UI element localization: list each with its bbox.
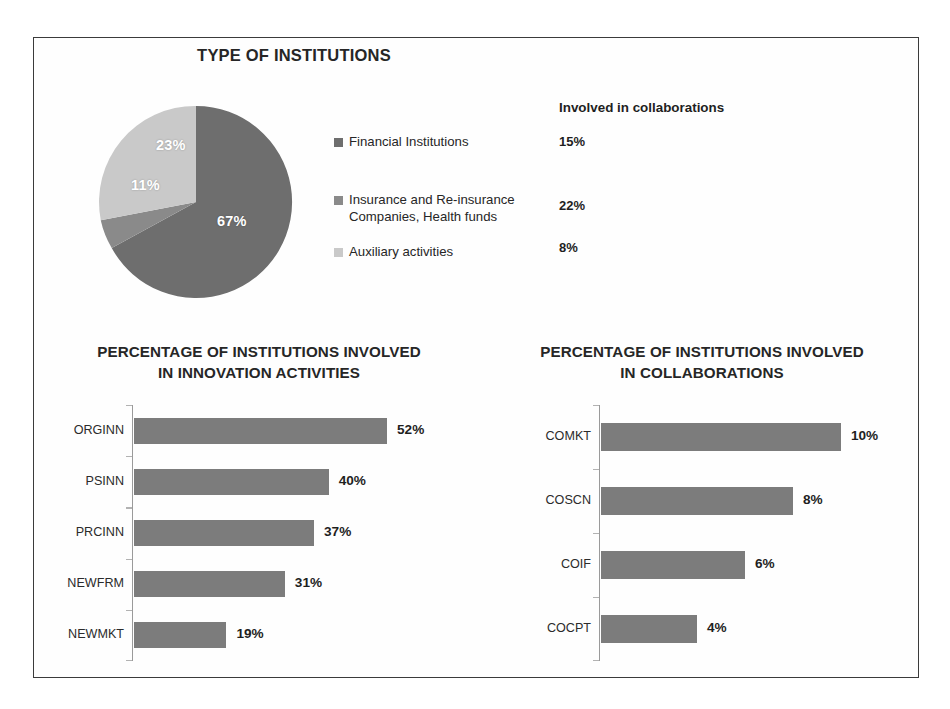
bar-value-orginn: 52% [397, 422, 424, 437]
axis-tick [593, 660, 599, 661]
bar-comkt [601, 423, 841, 451]
category-label-newmkt: NEWMKT [40, 627, 124, 641]
category-label-cocpt: COCPT [511, 621, 591, 635]
legend-item-auxiliary-activities: Auxiliary activities [334, 244, 453, 261]
collaborations-title: PERCENTAGE OF INSTITUTIONS INVOLVED IN C… [484, 341, 920, 383]
bar-value-prcinn: 37% [324, 524, 351, 539]
pie-slice-label-insurance: 11% [131, 177, 160, 193]
bar-newmkt [134, 622, 226, 648]
legend-swatch-icon-financial-institutions [334, 138, 343, 147]
legend-label-insurance: Insurance and Re-insurance Companies, He… [349, 192, 515, 225]
pie-slice-label-auxiliary-activities: 23% [156, 137, 186, 153]
legend-label-financial-institutions: Financial Institutions [349, 134, 468, 151]
bar-coscn [601, 487, 793, 515]
bar-psinn [134, 469, 329, 495]
axis-tick [126, 507, 132, 508]
bar-value-coif: 6% [755, 556, 775, 571]
bar-value-comkt: 10% [851, 428, 878, 443]
bar-orginn [134, 418, 387, 444]
category-label-newfrm: NEWFRM [40, 576, 124, 590]
pie-slice-auxiliary-activities [99, 106, 196, 220]
legend-swatch-icon-auxiliary-activities [334, 248, 343, 257]
category-label-orginn: ORGINN [40, 423, 124, 437]
innovation-activities-plot: ORGINN52%PSINN40%PRCINN37%NEWFRM31%NEWMK… [132, 405, 472, 661]
category-label-psinn: PSINN [40, 474, 124, 488]
bar-value-coscn: 8% [803, 492, 823, 507]
legend-item-financial-institutions: Financial Institutions [334, 134, 468, 151]
bar-newfrm [134, 571, 285, 597]
pie-chart-title: TYPE OF INSTITUTIONS [144, 46, 444, 65]
figure-frame: TYPE OF INSTITUTIONS 67% 11% 23% Financi… [33, 37, 919, 678]
bar-coif [601, 551, 745, 579]
category-label-coscn: COSCN [511, 493, 591, 507]
collaboration-value-insurance: 22% [559, 198, 585, 213]
collaborations-plot: COMKT10%COSCN8%COIF6%COCPT4% [599, 405, 915, 661]
innovation-title-line-1: PERCENTAGE OF INSTITUTIONS INVOLVED [97, 343, 421, 360]
innovation-activities-title: PERCENTAGE OF INSTITUTIONS INVOLVED IN I… [34, 341, 484, 383]
legend-swatch-icon-insurance [334, 196, 343, 205]
pie-slice-label-financial-institutions: 67% [217, 213, 247, 229]
legend-item-insurance: Insurance and Re-insurance Companies, He… [334, 192, 515, 225]
axis-tick [126, 660, 132, 661]
collaboration-value-auxiliary-activities: 8% [559, 240, 578, 255]
category-label-comkt: COMKT [511, 429, 591, 443]
involved-in-collaborations-header: Involved in collaborations [559, 100, 724, 115]
collaborations-title-line-1: PERCENTAGE OF INSTITUTIONS INVOLVED [540, 343, 864, 360]
legend-label-auxiliary-activities: Auxiliary activities [349, 244, 453, 261]
axis-tick [126, 456, 132, 457]
category-label-prcinn: PRCINN [40, 525, 124, 539]
bar-cocpt [601, 615, 697, 643]
axis-tick [126, 610, 132, 611]
axis-tick [593, 405, 599, 406]
bar-value-psinn: 40% [339, 473, 366, 488]
axis-tick [126, 559, 132, 560]
bar-value-cocpt: 4% [707, 620, 727, 635]
innovation-title-line-2: IN INNOVATION ACTIVITIES [158, 364, 360, 381]
pie-chart-graphic: 67% 11% 23% [98, 104, 294, 300]
axis-tick [593, 597, 599, 598]
collaborations-title-line-2: IN COLLABORATIONS [620, 364, 783, 381]
bar-value-newmkt: 19% [236, 626, 263, 641]
collaboration-value-financial-institutions: 15% [559, 134, 585, 149]
axis-tick [126, 405, 132, 406]
axis-tick [593, 533, 599, 534]
bar-prcinn [134, 520, 314, 546]
bar-value-newfrm: 31% [295, 575, 322, 590]
innovation-activities-panel: PERCENTAGE OF INSTITUTIONS INVOLVED IN I… [34, 333, 484, 679]
category-label-coif: COIF [511, 557, 591, 571]
collaborations-panel: PERCENTAGE OF INSTITUTIONS INVOLVED IN C… [484, 333, 920, 679]
pie-chart-panel: TYPE OF INSTITUTIONS 67% 11% 23% Financi… [34, 38, 920, 333]
pie-svg [98, 104, 294, 300]
axis-tick [593, 469, 599, 470]
